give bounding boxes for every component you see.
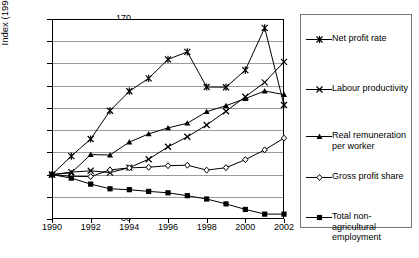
gridline (53, 152, 283, 153)
gridline (53, 63, 283, 64)
legend-label: Labour productivity (332, 83, 408, 94)
x-tick-mark (245, 219, 246, 223)
y-axis-title: Index (1990=100) (0, 0, 10, 78)
square-marker (317, 215, 322, 220)
x-tick-label: 1994 (109, 222, 149, 232)
diamond-marker (317, 175, 322, 181)
x-tick-mark (91, 219, 92, 223)
gridline (53, 41, 283, 42)
x-tick-label: 1998 (187, 222, 227, 232)
x-tick-mark (207, 219, 208, 223)
legend-label: Real remunerationper worker (332, 130, 406, 151)
x-tick-label: 1996 (148, 222, 188, 232)
asterisk-icon (306, 34, 332, 46)
x-icon (306, 84, 332, 96)
x-tick-mark (52, 219, 53, 223)
x-tick-label: 1990 (32, 222, 72, 232)
x-tick-label: 2002 (264, 222, 304, 232)
x-tick-mark (129, 219, 130, 223)
legend-label: Total non-agriculturalemployment (332, 211, 381, 243)
gridline (53, 130, 283, 131)
legend-item[interactable]: Labour productivity (306, 83, 410, 96)
gridline (53, 175, 283, 176)
x-tick-mark (168, 219, 169, 223)
x-tick-label: 1992 (71, 222, 111, 232)
chart-root: Index (1990=100) 80901001101201301401501… (0, 0, 419, 258)
legend-item[interactable]: Net profit rate (306, 33, 410, 46)
plot-area (52, 19, 284, 219)
triangle-icon (306, 131, 332, 143)
gridline (53, 108, 283, 109)
triangle-marker (317, 134, 323, 139)
legend-item[interactable]: Gross profit share (306, 171, 410, 184)
legend-label: Gross profit share (332, 171, 404, 182)
x-marker (317, 87, 323, 93)
legend-label: Net profit rate (332, 33, 387, 44)
chart-legend: Net profit rateLabour productivityReal r… (300, 14, 412, 228)
x-tick-label: 2000 (225, 222, 265, 232)
gridline (53, 86, 283, 87)
asterisk-marker (317, 36, 323, 43)
diamond-icon (306, 172, 332, 184)
gridline (53, 197, 283, 198)
x-tick-mark (284, 219, 285, 223)
legend-item[interactable]: Real remunerationper worker (306, 130, 410, 151)
legend-item[interactable]: Total non-agriculturalemployment (306, 211, 410, 243)
square-icon (306, 212, 332, 224)
